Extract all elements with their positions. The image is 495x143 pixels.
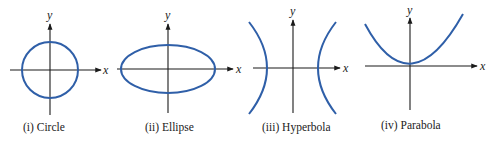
panel-parabola: x y (iv) Parabola <box>365 3 486 132</box>
caption-circle: (i) Circle <box>23 121 65 134</box>
y-axis-label: y <box>164 8 171 22</box>
panel-ellipse: x y (ii) Ellipse <box>117 8 242 134</box>
caption-hyperbola: (iii) Hyperbola <box>262 121 331 134</box>
caption-ellipse: (ii) Ellipse <box>145 121 194 134</box>
panel-hyperbola: x y (iii) Hyperbola <box>249 4 349 134</box>
x-axis-label: x <box>479 59 486 73</box>
caption-parabola: (iv) Parabola <box>381 119 441 132</box>
x-axis-label: x <box>342 61 349 75</box>
conic-sections-figure: x y (i) Circle x y (ii) Ellipse x y (iii… <box>0 0 495 143</box>
y-axis-label: y <box>46 8 53 22</box>
x-axis-label: x <box>102 63 109 77</box>
x-axis-label: x <box>235 62 242 76</box>
y-axis-label: y <box>406 3 413 17</box>
panel-circle: x y (i) Circle <box>10 8 109 134</box>
y-axis-label: y <box>289 4 296 18</box>
parabola-curve <box>365 14 463 64</box>
